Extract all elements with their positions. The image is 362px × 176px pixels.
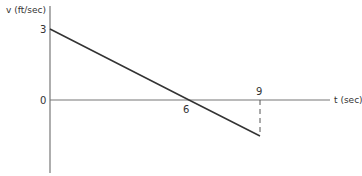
x-tick-6: 6 — [183, 104, 189, 115]
velocity-line — [50, 29, 260, 136]
x-tick-9: 9 — [256, 86, 262, 97]
velocity-time-chart: v (ft/sec) 3 0 6 9 t (sec) — [0, 0, 362, 176]
y-tick-0: 0 — [40, 95, 46, 106]
x-axis-label: t (sec) — [334, 95, 362, 105]
y-tick-3: 3 — [40, 24, 46, 35]
y-axis-label: v (ft/sec) — [6, 5, 46, 15]
